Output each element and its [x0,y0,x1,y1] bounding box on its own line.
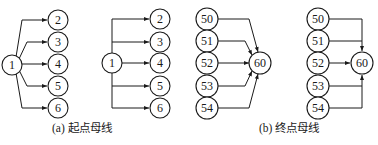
node-1: 1 [2,55,22,75]
svg-text:4: 4 [157,56,163,70]
caption-b-end-bus: (b) 终点母线 [259,119,319,135]
svg-text:2: 2 [157,12,163,26]
svg-text:3: 3 [157,35,163,49]
edge-51-60 [218,41,252,55]
node-4: 4 [150,53,170,73]
edge-1-2 [16,20,47,57]
svg-text:2: 2 [55,13,61,27]
svg-text:6: 6 [55,101,61,115]
svg-text:51: 51 [201,34,213,48]
node-51: 51 [307,30,329,52]
svg-text:3: 3 [55,35,61,49]
node-5: 5 [150,76,170,96]
svg-text:60: 60 [356,56,368,70]
node-6: 6 [150,98,170,118]
figure-a-curved: 1 2 3 4 5 6 [2,10,68,118]
svg-text:6: 6 [157,101,163,115]
node-4: 4 [48,54,68,74]
svg-text:5: 5 [55,79,61,93]
svg-text:1: 1 [109,56,115,70]
node-60: 60 [249,52,271,74]
node-50: 50 [196,8,218,30]
edge-53-60 [218,71,252,86]
svg-text:60: 60 [254,56,266,70]
svg-text:53: 53 [201,79,213,93]
svg-text:51: 51 [312,34,324,48]
node-5: 5 [48,76,68,96]
node-3: 3 [150,32,170,52]
node-51: 51 [196,30,218,52]
caption-a-start-bus: (a) 起点母线 [52,119,112,135]
edge-1-5 [19,70,47,86]
svg-text:50: 50 [201,12,213,26]
node-54: 54 [307,97,329,119]
svg-text:52: 52 [312,56,324,70]
node-53: 53 [196,75,218,97]
svg-text:54: 54 [201,101,213,115]
figure-a-orthogonal: 1 2 3 4 5 6 [102,9,170,118]
node-52: 52 [196,52,218,74]
figure-b-curved: 50 51 52 53 54 60 [196,8,271,119]
bus-line-upper [329,19,362,51]
node-52: 52 [307,52,329,74]
figure-b-orthogonal: 50 51 52 53 54 60 [307,8,373,119]
svg-text:4: 4 [55,57,61,71]
svg-text:53: 53 [312,79,324,93]
node-50: 50 [307,8,329,30]
node-2: 2 [150,9,170,29]
node-6: 6 [48,98,68,118]
bus-line-lower [329,75,362,108]
node-1: 1 [102,53,122,73]
node-3: 3 [48,32,68,52]
svg-text:54: 54 [312,101,324,115]
node-54: 54 [196,97,218,119]
node-53: 53 [307,75,329,97]
edge-54-60 [218,74,258,108]
node-60: 60 [351,52,373,74]
svg-text:1: 1 [9,58,15,72]
edge-1-3 [19,42,47,59]
svg-text:5: 5 [157,79,163,93]
edge-50-60 [218,19,258,52]
svg-text:52: 52 [201,56,213,70]
svg-text:50: 50 [312,12,324,26]
edge-1-6 [16,73,47,108]
node-2: 2 [48,10,68,30]
